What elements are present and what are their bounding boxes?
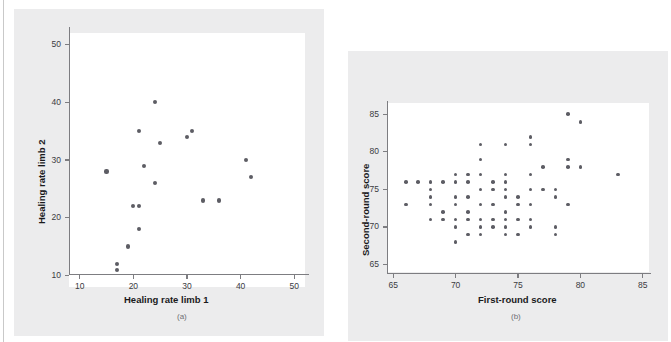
data-point [201,198,205,202]
data-point [104,169,108,173]
data-point [554,225,558,229]
panel-caption-b: (b) [511,312,521,321]
data-point [504,180,508,184]
x-tick [133,275,134,279]
data-point [579,165,583,169]
data-point [491,203,495,207]
y-axis-line [387,101,388,273]
y-tick [65,159,69,160]
data-point [554,195,558,199]
data-point [441,210,445,214]
data-point [466,195,470,199]
x-tick [517,274,518,278]
page-edge-rule [3,0,4,342]
x-tick [294,275,295,279]
data-point [454,180,458,184]
y-tick-label: 80 [361,146,379,156]
x-tick [186,275,187,279]
data-point [404,203,408,207]
x-tick-label: 10 [68,281,92,291]
data-point [566,165,570,169]
x-tick [393,274,394,278]
data-point [504,225,508,229]
data-point [441,218,445,222]
data-point [579,120,583,124]
data-point [541,165,545,169]
y-tick [383,189,387,190]
x-tick-label: 20 [121,281,145,291]
x-tick [580,274,581,278]
y-tick [65,44,69,45]
data-point [466,173,470,177]
data-point [466,218,470,222]
data-point [504,195,508,199]
y-tick-label: 50 [43,39,61,49]
data-point [158,141,162,145]
y-tick [383,114,387,115]
data-point [137,129,141,133]
data-point [153,181,157,185]
x-tick [240,275,241,279]
data-point [491,218,495,222]
x-tick-label: 50 [282,281,306,291]
data-point [541,188,545,192]
data-point [529,135,533,139]
y-tick-label: 85 [361,109,379,119]
data-point [479,225,483,229]
data-point [516,218,520,222]
x-tick-label: 80 [568,280,592,290]
data-point [466,210,470,214]
x-tick-label: 75 [506,280,530,290]
data-point [516,233,520,237]
data-point [566,112,570,116]
x-axis-title-a: Healing rate limb 1 [124,294,208,305]
data-point [142,164,146,168]
x-axis-line [387,273,651,274]
y-tick [383,151,387,152]
data-point [454,195,458,199]
y-tick [383,264,387,265]
y-axis-title-b: Second-round score [360,164,371,256]
y-axis-title-a: Healing rate limb 2 [36,140,47,224]
data-point [566,203,570,207]
y-tick [383,226,387,227]
data-point [466,180,470,184]
x-tick-label: 85 [631,280,655,290]
y-tick-label: 65 [361,259,379,269]
data-point [616,173,620,177]
data-point [529,225,533,229]
y-tick [65,102,69,103]
data-point [217,198,221,202]
y-tick-label: 40 [43,97,61,107]
x-tick [642,274,643,278]
x-tick [79,275,80,279]
y-tick-label: 10 [43,270,61,280]
x-tick-label: 40 [229,281,253,291]
data-point [441,180,445,184]
x-tick-label: 70 [444,280,468,290]
data-point [516,203,520,207]
x-axis-title-b: First-round score [478,294,557,305]
data-point [416,180,420,184]
plot-area-b [387,103,649,272]
data-point [404,180,408,184]
data-point [504,210,508,214]
x-axis-line [69,274,309,275]
data-point [491,225,495,229]
data-point [466,233,470,237]
figure-page: 10203040501020304050 Healing rate limb 2… [0,0,671,342]
scatter-panel-a: 10203040501020304050 Healing rate limb 2… [14,9,324,336]
data-point [566,158,570,162]
data-point [491,188,495,192]
plot-area-a [69,33,305,287]
x-tick-label: 65 [381,280,405,290]
data-point [516,195,520,199]
y-axis-line [69,27,70,274]
data-point [126,244,130,248]
y-tick [65,275,69,276]
data-point [185,135,189,139]
scatter-panel-b: 65707580856570758085 Second-round score … [348,51,668,341]
data-point [491,180,495,184]
panel-caption-a: (a) [177,312,187,321]
x-tick-label: 30 [175,281,199,291]
